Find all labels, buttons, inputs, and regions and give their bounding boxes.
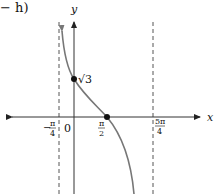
- y-intercept-label: √3: [78, 73, 92, 86]
- svg-text:π: π: [99, 119, 104, 128]
- function-curve: [62, 31, 134, 194]
- caption-fragment: − h): [0, 0, 28, 15]
- svg-text:5π: 5π: [155, 117, 165, 126]
- svg-text:π: π: [50, 119, 55, 128]
- x-intercept-point: [104, 114, 110, 120]
- tick-label-neg-pi-over-4: − π 4: [43, 119, 56, 138]
- svg-text:4: 4: [50, 129, 55, 138]
- tick-label-pi-over-2: π 2: [98, 119, 105, 138]
- tick-label-five-pi-over-4: 5π 4: [155, 117, 165, 136]
- x-axis-label: x: [207, 111, 214, 124]
- graph-canvas: − h) y x √3 0 − π 4 π 2 5π 4: [0, 0, 215, 194]
- svg-text:4: 4: [157, 127, 162, 136]
- y-intercept-point: [71, 76, 77, 82]
- svg-text:2: 2: [99, 129, 104, 138]
- y-axis-label: y: [70, 3, 78, 16]
- origin-label: 0: [64, 122, 71, 135]
